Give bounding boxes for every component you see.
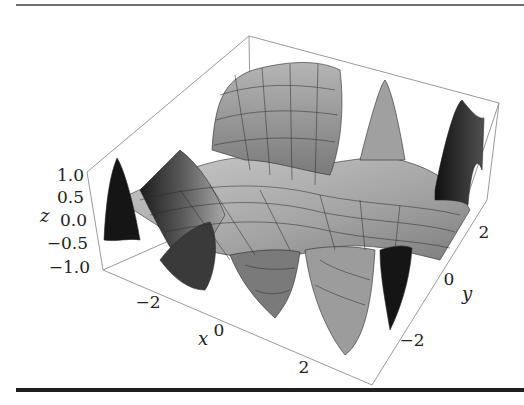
bottom-rule [16,388,524,392]
y-axis-label: y [461,283,473,304]
x-axis-label: x [198,328,208,349]
z-axis: 1.0 0.5 0.0 −0.5 −1.0 z [39,165,90,277]
y-tick-3: −2 [399,330,424,350]
z-tick-3: 0.0 [60,210,87,230]
z-tick-5: −1.0 [49,257,90,277]
x-tick-2: 0 [214,320,225,340]
y-tick-1: 2 [479,222,490,242]
y-tick-2: 0 [444,269,455,289]
surface [104,63,484,356]
x-tick-3: 2 [299,357,310,377]
z-tick-2: 0.5 [57,187,84,207]
x-tick-1: −2 [135,292,160,312]
z-axis-label: z [39,205,50,226]
surface-plot: 1.0 0.5 0.0 −0.5 −1.0 z −2 0 2 x 2 0 −2 … [0,0,524,405]
z-tick-1: 1.0 [57,165,84,185]
z-tick-4: −0.5 [47,233,88,253]
